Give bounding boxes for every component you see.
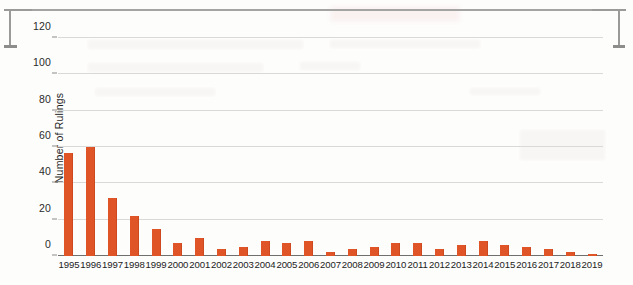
x-tick-label: 2005 (276, 259, 298, 270)
y-tick-mark (52, 109, 57, 110)
y-tick-mark (52, 218, 57, 219)
bar-slot (581, 20, 603, 256)
bar-slot (58, 20, 80, 256)
bar (391, 243, 400, 256)
bar-slot (494, 20, 516, 256)
y-tick-mark (52, 182, 57, 183)
y-tick-label: 60 (39, 129, 51, 141)
bar-slot (450, 20, 472, 256)
bar (261, 241, 270, 256)
x-tick-label: 2006 (298, 259, 320, 270)
x-tick-label: 1999 (145, 259, 167, 270)
bar-slot (189, 20, 211, 256)
bar-slot (298, 20, 320, 256)
bar-slot (407, 20, 429, 256)
x-tick-label: 2015 (494, 259, 516, 270)
bar (588, 254, 597, 256)
bar (64, 153, 73, 256)
bar-slot (516, 20, 538, 256)
y-tick-label: 80 (39, 93, 51, 105)
bar (370, 247, 379, 256)
bar-slot (254, 20, 276, 256)
x-tick-label: 1997 (102, 259, 124, 270)
bar-slot (538, 20, 560, 256)
bar (566, 252, 575, 256)
bar (195, 238, 204, 256)
bar-slot (559, 20, 581, 256)
x-tick-label: 2018 (559, 259, 581, 270)
bar (500, 245, 509, 256)
scan-edge-rule (24, 9, 594, 11)
bar (239, 247, 248, 256)
bar (544, 249, 553, 256)
bar-slot (385, 20, 407, 256)
y-tick-label: 100 (33, 56, 51, 68)
y-tick-label: 0 (45, 238, 51, 250)
y-tick-mark (52, 146, 57, 147)
x-tick-label: 2003 (232, 259, 254, 270)
x-tick-label: 2004 (254, 259, 276, 270)
bar-slot (232, 20, 254, 256)
plot-area: 020406080100120 (58, 20, 603, 256)
x-tick-label: 2002 (211, 259, 233, 270)
x-tick-label: 2001 (189, 259, 211, 270)
chart-screenshot: Number of Rulings 020406080100120 199519… (0, 0, 633, 285)
bar (348, 249, 357, 256)
x-tick-label: 1996 (80, 259, 102, 270)
bar-slot (320, 20, 342, 256)
bar-slot (123, 20, 145, 256)
y-tick-mark (52, 255, 57, 256)
y-tick-label: 120 (33, 20, 51, 32)
bar-slot (472, 20, 494, 256)
y-tick-mark (52, 73, 57, 74)
bar (217, 249, 226, 256)
bar (130, 216, 139, 256)
x-tick-label: 2010 (385, 259, 407, 270)
bar (173, 243, 182, 256)
bar-slot (211, 20, 233, 256)
bar-slot (167, 20, 189, 256)
bar (435, 249, 444, 256)
bar (152, 229, 161, 256)
bar-slot (429, 20, 451, 256)
x-tick-label: 1998 (123, 259, 145, 270)
bar (413, 243, 422, 256)
bar (282, 243, 291, 256)
bar-series (58, 20, 603, 256)
bar-slot (145, 20, 167, 256)
x-tick-label: 2012 (429, 259, 451, 270)
bar-slot (276, 20, 298, 256)
bar (86, 147, 95, 256)
bar (479, 241, 488, 256)
bar (522, 247, 531, 256)
bar-slot (102, 20, 124, 256)
bar (326, 252, 335, 256)
bar (457, 245, 466, 256)
x-tick-label: 2008 (341, 259, 363, 270)
x-tick-label: 2011 (407, 259, 429, 270)
x-tick-label: 2019 (581, 259, 603, 270)
x-tick-label: 2016 (516, 259, 538, 270)
x-tick-label: 1995 (58, 259, 80, 270)
x-tick-label: 2007 (320, 259, 342, 270)
x-axis-ticks: 1995199619971998199920002001200220032004… (58, 259, 603, 270)
bar-slot (341, 20, 363, 256)
y-tick-label: 20 (39, 202, 51, 214)
x-tick-label: 2013 (450, 259, 472, 270)
y-tick-mark (52, 37, 57, 38)
bar (304, 241, 313, 256)
x-tick-label: 2000 (167, 259, 189, 270)
x-tick-label: 2017 (538, 259, 560, 270)
bar-slot (363, 20, 385, 256)
x-tick-label: 2009 (363, 259, 385, 270)
bar (108, 198, 117, 256)
bar-slot (80, 20, 102, 256)
x-tick-label: 2014 (472, 259, 494, 270)
y-tick-label: 40 (39, 165, 51, 177)
